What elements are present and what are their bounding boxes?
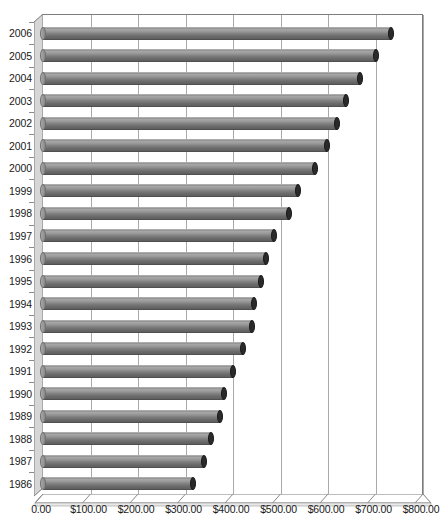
bar-cap-right <box>240 342 246 355</box>
bar <box>43 229 278 242</box>
bar-body <box>43 72 360 85</box>
y-tick-label: 2005 <box>9 51 32 61</box>
y-tick-label: 1993 <box>9 321 32 331</box>
bar <box>43 275 265 288</box>
x-tick-label: $800.00 <box>403 503 440 515</box>
y-tick-label: 2002 <box>9 118 32 128</box>
bar-body <box>43 229 274 242</box>
x-tick-label: $100.00 <box>70 503 107 515</box>
bar-cap-left <box>40 207 46 220</box>
bar-cap-right <box>373 49 379 62</box>
bar <box>43 297 258 310</box>
bar-body <box>43 49 376 62</box>
bar-body <box>43 275 261 288</box>
y-tick-label: 1998 <box>9 208 32 218</box>
y-tick-mark <box>29 112 34 113</box>
bar <box>43 72 364 85</box>
bar-cap-left <box>40 365 46 378</box>
bar-cap-left <box>40 455 46 468</box>
bar-cap-right <box>324 139 330 152</box>
bar-body <box>43 365 233 378</box>
y-tick-label: 2006 <box>9 28 32 38</box>
y-tick-label: 2001 <box>9 141 32 151</box>
y-tick-mark <box>29 382 34 383</box>
y-tick-mark <box>29 337 34 338</box>
y-tick-mark <box>29 179 34 180</box>
bar-cap-left <box>40 117 46 130</box>
y-tick-mark <box>29 405 34 406</box>
y-tick-mark <box>29 270 34 271</box>
bar <box>43 320 256 333</box>
y-tick-mark <box>29 315 34 316</box>
y-tick-mark <box>29 292 34 293</box>
bar-cap-left <box>40 342 46 355</box>
y-axis: 2006200520042003200220012000199919981997… <box>0 0 34 529</box>
bar-cap-right <box>258 275 264 288</box>
bar-cap-left <box>40 162 46 175</box>
bar-cap-right <box>251 297 257 310</box>
bar-cap-right <box>388 27 394 40</box>
y-tick-mark <box>29 157 34 158</box>
y-tick-mark <box>29 202 34 203</box>
bar-body <box>43 184 298 197</box>
bar-cap-right <box>334 117 340 130</box>
bar-cap-right <box>263 252 269 265</box>
y-tick-label: 1991 <box>9 366 32 376</box>
bar <box>43 117 341 130</box>
y-tick-label: 1990 <box>9 389 32 399</box>
y-tick-label: 1988 <box>9 434 32 444</box>
bar-body <box>43 387 224 400</box>
bar-cap-right <box>217 410 223 423</box>
y-tick-label: 1996 <box>9 254 32 264</box>
y-tick-mark <box>29 360 34 361</box>
y-tick-mark <box>29 134 34 135</box>
y-tick-label: 1994 <box>9 299 32 309</box>
bar-body <box>43 139 327 152</box>
bar <box>43 365 237 378</box>
bar-cap-right <box>295 184 301 197</box>
bar-cap-right <box>249 320 255 333</box>
bar-cap-left <box>40 72 46 85</box>
x-tick-label: $200.00 <box>118 503 155 515</box>
bar <box>43 455 208 468</box>
y-tick-label: 1997 <box>9 231 32 241</box>
y-tick-mark <box>29 67 34 68</box>
x-tick-label: $500.00 <box>260 503 297 515</box>
y-tick-label: 1987 <box>9 456 32 466</box>
bar-cap-left <box>40 252 46 265</box>
bar-body <box>43 320 252 333</box>
bar <box>43 342 247 355</box>
bar-cap-left <box>40 275 46 288</box>
bar-cap-left <box>40 320 46 333</box>
bar-cap-right <box>343 94 349 107</box>
x-axis: 0.00$100.00$200.00$300.00$400.00$500.00$… <box>0 503 439 525</box>
x-tick-label: $300.00 <box>165 503 202 515</box>
y-tick-label: 1986 <box>9 479 32 489</box>
bar <box>43 432 215 445</box>
x-tick-label: $600.00 <box>308 503 345 515</box>
bar-body <box>43 297 254 310</box>
bar <box>43 94 350 107</box>
bar-cap-left <box>40 27 46 40</box>
bar-body <box>43 455 204 468</box>
bar-cap-right <box>190 477 196 490</box>
bar-cap-right <box>208 432 214 445</box>
bar <box>43 477 197 490</box>
bar-body <box>43 477 193 490</box>
bar <box>43 387 228 400</box>
y-tick-mark <box>29 247 34 248</box>
bar-body <box>43 342 243 355</box>
bar-body <box>43 162 315 175</box>
bar-cap-left <box>40 297 46 310</box>
y-tick-mark <box>29 44 34 45</box>
y-tick-mark <box>29 472 34 473</box>
bars-layer <box>43 14 439 495</box>
bar <box>43 252 270 265</box>
bar-cap-right <box>357 72 363 85</box>
bar <box>43 184 302 197</box>
bar-cap-left <box>40 410 46 423</box>
y-tick-label: 2003 <box>9 96 32 106</box>
y-tick-mark <box>29 89 34 90</box>
y-tick-label: 2004 <box>9 73 32 83</box>
